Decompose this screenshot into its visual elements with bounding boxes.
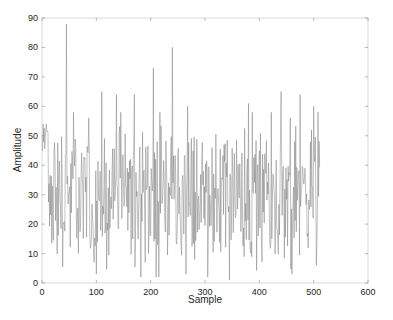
x-tick-label: 0: [39, 287, 44, 297]
x-axis-label: Sample: [188, 294, 222, 305]
y-tick-label: 50: [28, 131, 38, 141]
line-chart: 0100200300400500600 0102030405060708090 …: [0, 0, 393, 320]
y-tick-label: 60: [28, 101, 38, 111]
y-axis-label: Amplitude: [12, 127, 23, 172]
y-tick-label: 0: [33, 278, 38, 288]
y-tick-label: 40: [28, 160, 38, 170]
x-tick-label: 600: [360, 287, 375, 297]
y-tick-label: 20: [28, 219, 38, 229]
x-tick-label: 400: [252, 287, 267, 297]
y-tick-label: 10: [28, 249, 38, 259]
x-tick-label: 200: [143, 287, 158, 297]
x-tick-label: 500: [306, 287, 321, 297]
y-tick-label: 80: [28, 42, 38, 52]
x-tick-label: 100: [89, 287, 104, 297]
y-tick-label: 90: [28, 13, 38, 23]
y-tick-label: 70: [28, 72, 38, 82]
y-tick-label: 30: [28, 190, 38, 200]
